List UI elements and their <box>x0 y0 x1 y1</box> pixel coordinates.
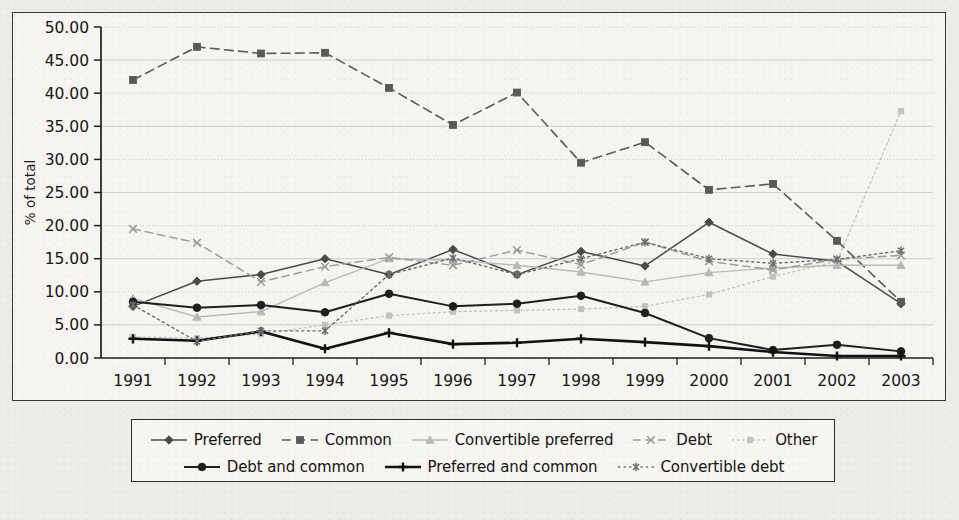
marker-square <box>770 180 777 187</box>
x-tick-label: 2001 <box>753 372 792 390</box>
x-tick-label: 1992 <box>177 372 216 390</box>
marker-circle <box>513 300 521 308</box>
legend-label: Debt <box>676 431 712 449</box>
legend-label: Other <box>775 431 817 449</box>
marker-circle <box>257 301 265 309</box>
marker-square <box>322 49 329 56</box>
y-tick-label: 20.00 <box>45 217 89 235</box>
marker-plus <box>384 328 393 337</box>
legend-item-other[interactable]: Other <box>730 431 817 449</box>
marker-small-square <box>770 274 775 279</box>
y-tick-label: 35.00 <box>45 118 89 136</box>
x-tick-label: 2002 <box>817 372 856 390</box>
legend-swatch-smallsquare-icon <box>730 432 770 448</box>
marker-plus <box>704 341 713 350</box>
marker-square <box>514 89 521 96</box>
marker-circle <box>193 304 201 312</box>
marker-asterisk <box>632 462 638 470</box>
marker-circle <box>705 334 713 342</box>
legend-marker <box>632 462 638 470</box>
x-tick-label: 1996 <box>433 372 472 390</box>
x-tick-label: 1991 <box>113 372 152 390</box>
marker-diamond <box>577 247 585 255</box>
marker-square <box>258 50 265 57</box>
marker-asterisk <box>322 327 328 335</box>
marker-small-square <box>898 108 903 113</box>
marker-square <box>578 159 585 166</box>
line-chart: 0.005.0010.0015.0020.0025.0030.0035.0040… <box>13 13 947 402</box>
y-tick-label: 15.00 <box>45 250 89 268</box>
y-axis-title: % of total <box>22 160 38 225</box>
marker-circle <box>449 303 457 311</box>
marker-circle <box>321 309 329 317</box>
legend-item-preferred-and-common[interactable]: Preferred and common <box>383 458 598 476</box>
y-tick-label: 10.00 <box>45 283 89 301</box>
legend-label: Preferred and common <box>428 458 598 476</box>
legend-item-convertible-debt[interactable]: Convertible debt <box>616 458 785 476</box>
legend-marker <box>165 435 173 443</box>
legend-marker <box>398 462 407 471</box>
legend-marker <box>198 463 206 471</box>
marker-square <box>296 436 303 443</box>
chart-figure: 0.005.0010.0015.0020.0025.0030.0035.0040… <box>0 0 959 520</box>
legend-label: Common <box>325 431 392 449</box>
marker-small-square <box>706 292 711 297</box>
marker-diamond <box>705 218 713 226</box>
legend-item-convertible-preferred[interactable]: Convertible preferred <box>410 431 614 449</box>
marker-small-square <box>748 437 753 442</box>
marker-plus <box>320 344 329 353</box>
marker-diamond <box>641 262 649 270</box>
marker-small-square <box>514 308 519 313</box>
x-tick-label: 1993 <box>241 372 280 390</box>
marker-plus <box>640 338 649 347</box>
marker-plus <box>128 334 137 343</box>
marker-circle <box>833 341 841 349</box>
y-tick-label: 0.00 <box>54 350 89 368</box>
legend-label: Convertible debt <box>661 458 785 476</box>
marker-square <box>706 186 713 193</box>
x-tick-label: 1997 <box>497 372 536 390</box>
marker-small-square <box>578 306 583 311</box>
plot-area: 0.005.0010.0015.0020.0025.0030.0035.0040… <box>12 12 946 401</box>
marker-square <box>450 122 457 129</box>
marker-square <box>642 139 649 146</box>
marker-circle <box>577 292 585 300</box>
marker-plus <box>398 462 407 471</box>
series-convertible-debt <box>130 238 904 346</box>
marker-diamond <box>449 245 457 253</box>
y-tick-label: 50.00 <box>45 19 89 37</box>
legend-row-2: Debt and commonPreferred and commonConve… <box>142 453 824 480</box>
marker-square <box>834 237 841 244</box>
marker-circle <box>641 309 649 317</box>
legend-item-debt[interactable]: Debt <box>631 431 712 449</box>
chart-legend: PreferredCommonConvertible preferredDebt… <box>131 419 835 482</box>
x-tick-label: 1998 <box>561 372 600 390</box>
legend-label: Convertible preferred <box>455 431 614 449</box>
y-tick-label: 30.00 <box>45 151 89 169</box>
marker-diamond <box>257 270 265 278</box>
marker-small-square <box>386 313 391 318</box>
legend-item-debt-and-common[interactable]: Debt and common <box>182 458 365 476</box>
legend-item-preferred[interactable]: Preferred <box>149 431 262 449</box>
legend-swatch-cross-icon <box>631 432 671 448</box>
legend-swatch-triangle-icon <box>410 432 450 448</box>
legend-row-1: PreferredCommonConvertible preferredDebt… <box>142 426 824 453</box>
marker-square <box>130 77 137 84</box>
marker-diamond <box>193 277 201 285</box>
legend-marker <box>296 436 303 443</box>
marker-circle <box>198 463 206 471</box>
legend-marker <box>748 437 753 442</box>
marker-asterisk <box>450 254 456 262</box>
marker-square <box>194 43 201 50</box>
legend-swatch-plus-icon <box>383 459 423 475</box>
x-tick-label: 1994 <box>305 372 344 390</box>
legend-swatch-circle-icon <box>182 459 222 475</box>
y-tick-label: 5.00 <box>54 316 89 334</box>
legend-item-common[interactable]: Common <box>280 431 392 449</box>
legend-swatch-asterisk-icon <box>616 459 656 475</box>
y-tick-label: 40.00 <box>45 85 89 103</box>
marker-circle <box>385 290 393 298</box>
marker-plus <box>832 351 841 360</box>
marker-plus <box>512 338 521 347</box>
legend-label: Preferred <box>194 431 262 449</box>
